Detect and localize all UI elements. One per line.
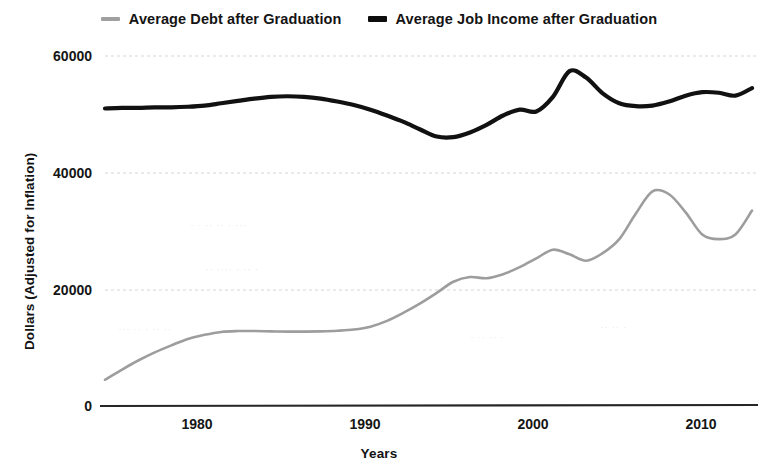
x-axis-line bbox=[100, 405, 758, 406]
plot-area bbox=[0, 0, 758, 471]
series-line-debt bbox=[105, 190, 752, 380]
chart-container: · · ·· ·· · ··· ·· ···· · ·· · ··· ·· · … bbox=[0, 0, 758, 471]
series-line-income bbox=[105, 70, 752, 137]
gridlines bbox=[105, 56, 758, 290]
